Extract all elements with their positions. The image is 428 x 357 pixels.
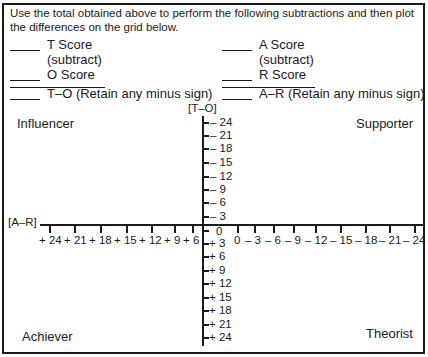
x-tick	[74, 226, 76, 233]
x-tick-label: + 15	[114, 234, 137, 246]
y-tick-label: – 12	[210, 170, 232, 182]
quadrant-supporter: Supporter	[356, 116, 413, 131]
y-tick-label-zero: 0	[216, 225, 222, 237]
y-tick-label: + 21	[209, 318, 232, 330]
y-tick	[203, 162, 209, 164]
y-tick-label: + 12	[209, 277, 232, 289]
x-tick	[414, 226, 416, 233]
x-tick	[151, 226, 153, 233]
a-minus-r-label: A–R (Retain any minus sign)	[259, 86, 424, 101]
x-tick	[49, 226, 51, 233]
x-tick-label: – 15	[330, 234, 352, 246]
a-minus-r-blank[interactable]	[222, 99, 252, 100]
x-tick-label: + 9	[164, 234, 180, 246]
t-score-blank[interactable]	[10, 50, 40, 51]
y-tick	[203, 216, 209, 218]
y-tick-label: – 6	[210, 196, 226, 208]
x-tick-label: – 12	[305, 234, 327, 246]
x-tick-label: 0	[234, 234, 240, 246]
y-tick-label: – 21	[210, 129, 232, 141]
y-tick	[203, 135, 209, 137]
y-tick-label: – 15	[210, 156, 232, 168]
y-tick	[203, 189, 209, 191]
x-tick-label: + 21	[64, 234, 87, 246]
y-tick	[203, 122, 209, 124]
x-tick	[126, 226, 128, 233]
x-tick	[254, 226, 256, 233]
t-minus-o-label: T–O (Retain any minus sign)	[47, 86, 212, 101]
y-tick-label: + 6	[209, 250, 225, 262]
instructions-text: Use the total obtained above to perform …	[10, 6, 418, 34]
y-tick	[203, 176, 209, 178]
x-tick	[273, 226, 275, 233]
x-tick	[389, 226, 391, 233]
t-minus-o-blank[interactable]	[10, 99, 40, 100]
r-score-blank[interactable]	[222, 80, 252, 81]
y-tick-label: + 24	[209, 331, 232, 343]
y-tick-label: + 18	[209, 304, 232, 316]
t-score-subtract-label: (subtract)	[47, 52, 102, 67]
quadrant-theorist: Theorist	[366, 326, 413, 341]
quadrant-achiever: Achiever	[22, 329, 73, 344]
x-axis-label: [A–R]	[8, 216, 37, 228]
y-axis-label: [T–O]	[188, 102, 217, 114]
x-tick	[237, 226, 239, 233]
a-score-subtract-label: (subtract)	[259, 52, 314, 67]
y-tick-label: + 9	[209, 264, 225, 276]
x-tick	[315, 226, 317, 233]
a-score-blank[interactable]	[222, 50, 252, 51]
y-tick-label: + 3	[209, 237, 225, 249]
a-score-label: A Score	[259, 37, 305, 52]
x-tick-label: – 3	[245, 234, 261, 246]
y-tick-label: – 24	[210, 116, 232, 128]
x-tick-label: – 21	[379, 234, 401, 246]
x-tick-label: + 24	[39, 234, 62, 246]
x-tick-label: – 6	[265, 234, 281, 246]
x-tick	[293, 226, 295, 233]
x-tick	[100, 226, 102, 233]
x-tick	[192, 226, 194, 233]
t-score-label: T Score	[47, 37, 92, 52]
y-tick-label: + 15	[209, 291, 232, 303]
o-score-label: O Score	[47, 67, 95, 82]
y-tick	[203, 230, 209, 232]
x-tick-label: – 9	[285, 234, 301, 246]
y-tick	[203, 202, 209, 204]
r-score-label: R Score	[259, 67, 306, 82]
x-tick-label: – 18	[355, 234, 377, 246]
quadrant-influencer: Influencer	[17, 116, 74, 131]
x-tick-label: + 12	[139, 234, 162, 246]
y-tick-label: – 18	[210, 142, 232, 154]
x-tick	[365, 226, 367, 233]
x-tick-label: + 18	[89, 234, 112, 246]
y-tick	[203, 148, 209, 150]
x-tick-label: + 6	[183, 234, 199, 246]
x-tick-label: – 24	[403, 234, 425, 246]
y-tick-label: – 9	[210, 183, 226, 195]
o-score-blank[interactable]	[10, 80, 40, 81]
x-tick	[340, 226, 342, 233]
y-tick-label: – 3	[210, 210, 226, 222]
x-tick	[174, 226, 176, 233]
